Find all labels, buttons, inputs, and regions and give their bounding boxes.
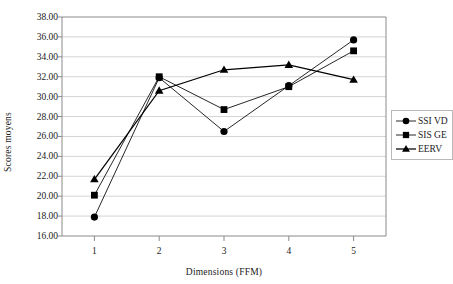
x-axis-tick-label: 5 bbox=[342, 246, 366, 257]
x-axis-tick-label: 4 bbox=[277, 246, 301, 257]
circle-marker-icon bbox=[403, 118, 410, 125]
legend-label: SSI VD bbox=[417, 115, 448, 127]
legend-label: EERV bbox=[417, 143, 442, 155]
legend-label: SIS GE bbox=[417, 129, 447, 141]
x-axis-tick-label: 2 bbox=[147, 246, 171, 257]
chart-legend: SSI VDSIS GEEERV bbox=[391, 110, 453, 160]
legend-entry: EERV bbox=[395, 142, 448, 156]
legend-key bbox=[395, 143, 417, 155]
legend-entry: SSI VD bbox=[395, 114, 448, 128]
square-marker-icon bbox=[403, 132, 409, 138]
legend-key bbox=[395, 115, 417, 127]
x-axis-tick-label: 3 bbox=[212, 246, 236, 257]
legend-entry: SIS GE bbox=[395, 128, 448, 142]
legend-key bbox=[395, 129, 417, 141]
x-axis-tick-label: 1 bbox=[82, 246, 106, 257]
x-axis-title: Dimensions (FFM) bbox=[62, 266, 386, 278]
